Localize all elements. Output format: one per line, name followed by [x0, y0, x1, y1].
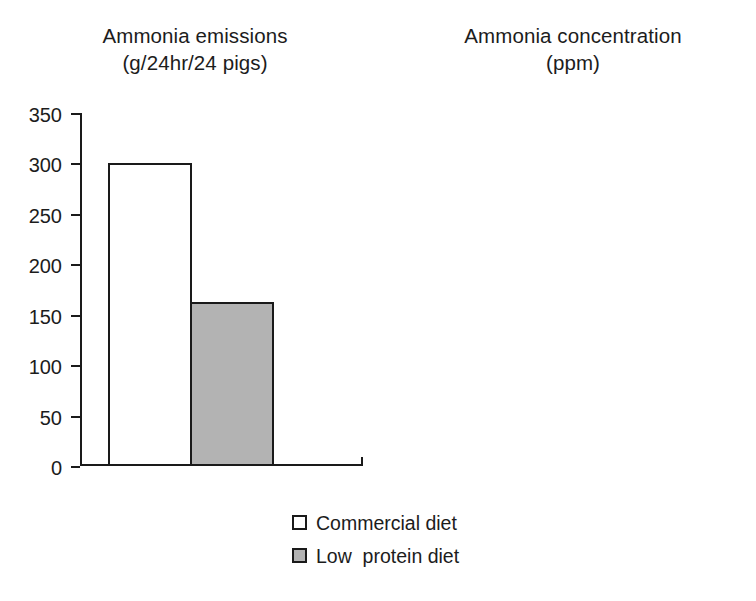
- chart-title-ammonia-emissions: Ammonia emissions (g/24hr/24 pigs): [0, 22, 390, 76]
- bar-low-protein-diet[interactable]: [190, 302, 274, 466]
- y-tick-150: 150: [71, 315, 80, 317]
- y-tick-200: 200: [71, 264, 80, 266]
- y-tick-label-150: 150: [29, 306, 62, 326]
- chart-title-ammonia-concentration: Ammonia concentration (ppm): [390, 22, 756, 76]
- y-tick-50: 50: [71, 416, 80, 418]
- y-tick-0: 0: [71, 466, 80, 468]
- chart-title-line-2: (g/24hr/24 pigs): [0, 49, 390, 76]
- y-tick-label-350: 350: [29, 105, 62, 125]
- legend-swatch-filled-square-icon: [292, 548, 307, 563]
- x-axis-end-tick: [361, 457, 363, 466]
- chart-title-line-1: Ammonia emissions: [0, 22, 390, 49]
- y-tick-300: 300: [71, 163, 80, 165]
- y-axis-line: [80, 113, 82, 466]
- y-tick-label-300: 300: [29, 155, 62, 175]
- bar-chart-figure: Ammonia emissions (g/24hr/24 pigs) 350 3…: [0, 0, 756, 601]
- bar-commercial-diet[interactable]: [108, 163, 192, 466]
- chart-legend: Commercial diet Low protein diet: [292, 506, 552, 572]
- chart-title-line-2: (ppm): [390, 49, 756, 76]
- y-tick-350: 350: [71, 113, 80, 115]
- y-tick-label-200: 200: [29, 256, 62, 276]
- plot-area-ammonia-emissions: 350 300 250 200 150 100 50 0: [80, 113, 363, 466]
- chart-panel-ammonia-emissions: Ammonia emissions (g/24hr/24 pigs) 350 3…: [0, 0, 390, 500]
- chart-title-line-1: Ammonia concentration: [390, 22, 756, 49]
- chart-panel-ammonia-concentration: Ammonia concentration (ppm) 20 15 10 5 0: [390, 0, 756, 500]
- legend-swatch-open-square-icon: [292, 515, 307, 530]
- y-tick-250: 250: [71, 214, 80, 216]
- y-tick-label-250: 250: [29, 205, 62, 225]
- legend-label-low-protein-diet: Low protein diet: [316, 545, 459, 567]
- legend-item-low-protein-diet[interactable]: Low protein diet: [292, 539, 552, 572]
- y-tick-label-50: 50: [40, 407, 62, 427]
- y-tick-label-100: 100: [29, 357, 62, 377]
- y-tick-label-0: 0: [51, 458, 62, 478]
- y-tick-100: 100: [71, 365, 80, 367]
- legend-label-commercial-diet: Commercial diet: [316, 512, 457, 534]
- legend-item-commercial-diet[interactable]: Commercial diet: [292, 506, 552, 539]
